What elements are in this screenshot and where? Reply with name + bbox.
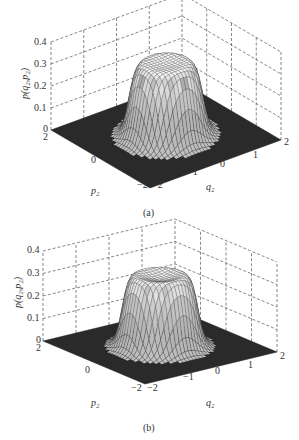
z-axis-label: p(q₂,p₂) bbox=[12, 268, 23, 318]
caption-b: (b) bbox=[143, 422, 155, 433]
y-tick-neg2: −2 bbox=[131, 383, 142, 393]
figure-b: 0.4 0.3 0.2 0.1 0 p(q₂,p₂) 2 0 −2 p₂ −2 … bbox=[0, 0, 299, 440]
surface-plot-b bbox=[0, 0, 299, 440]
x-tick-2: 2 bbox=[280, 351, 285, 361]
x-tick-0: 0 bbox=[215, 366, 220, 376]
x-axis-label: q₂ bbox=[206, 398, 214, 408]
y-axis-label: p₂ bbox=[91, 398, 99, 408]
x-tick-neg2: −2 bbox=[147, 383, 158, 393]
z-tick-0.3: 0.3 bbox=[27, 268, 40, 278]
z-tick-0.2: 0.2 bbox=[27, 291, 40, 301]
z-tick-0.1: 0.1 bbox=[27, 313, 40, 323]
y-tick-2: 2 bbox=[36, 343, 41, 353]
z-tick-0.4: 0.4 bbox=[27, 245, 40, 255]
x-tick-neg1: −1 bbox=[183, 372, 194, 382]
y-tick-0: 0 bbox=[85, 365, 90, 375]
z-gridline bbox=[43, 219, 277, 262]
x-tick-1: 1 bbox=[248, 360, 253, 370]
plot-group bbox=[43, 219, 277, 384]
